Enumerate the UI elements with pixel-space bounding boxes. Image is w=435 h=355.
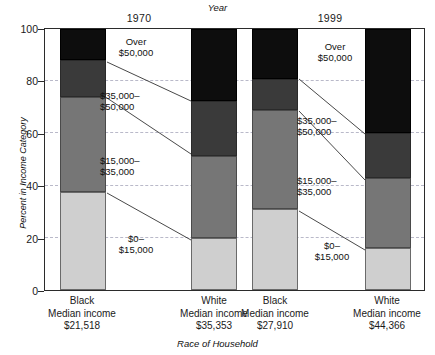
bar-segment-15000-35000[interactable] <box>191 156 237 238</box>
x-axis-title: Race of Household <box>0 338 435 349</box>
callout-line-2: $50,000 <box>297 126 331 137</box>
callout-line-1: $15,000– <box>297 175 337 186</box>
callout-line-1: $35,000– <box>297 115 337 126</box>
callout-15000-35000-1970: $15,000– $35,000 <box>100 155 172 177</box>
y-tick-label-60: 60 <box>8 128 38 140</box>
group-heading-1970: 1970 <box>44 12 234 24</box>
bar-segment-35000-50000[interactable] <box>191 101 237 156</box>
callout-over-50000-1999: Over $50,000 <box>305 41 365 63</box>
callout-line-1: Over <box>325 41 346 52</box>
x-label-1999-black: Black Median income $27,910 <box>221 295 329 333</box>
callout-35000-50000-1999: $35,000– $50,000 <box>297 115 369 137</box>
callout-35000-50000-1970: $35,000– $50,000 <box>100 90 172 112</box>
bar-1999-white[interactable] <box>365 29 411 290</box>
callout-line-1: $0– <box>128 233 144 244</box>
y-tick-label-20: 20 <box>8 233 38 245</box>
bar-1970-white[interactable] <box>191 29 237 290</box>
x-label-median: Median income <box>333 308 435 321</box>
y-axis-title: Percent in Income Category <box>18 98 28 248</box>
x-label-median: Median income <box>28 308 136 321</box>
bar-segment-0-15000[interactable] <box>365 248 411 290</box>
group-heading-1999: 1999 <box>235 12 425 24</box>
callout-line-2: $35,000 <box>100 166 134 177</box>
callout-15000-35000-1999: $15,000– $35,000 <box>297 175 369 197</box>
x-label-1999-white: White Median income $44,366 <box>333 295 435 333</box>
callout-0-15000-1970: $0– $15,000 <box>104 233 168 255</box>
x-label-race: Black <box>221 295 329 308</box>
callout-line-2: $50,000 <box>318 52 352 63</box>
bar-segment-0-15000[interactable] <box>252 209 298 290</box>
y-tick-label-40: 40 <box>8 180 38 192</box>
callout-line-1: $15,000– <box>100 155 140 166</box>
y-tick-label-80: 80 <box>8 75 38 87</box>
bar-segment-over-50000[interactable] <box>252 29 298 79</box>
bar-segment-0-15000[interactable] <box>191 238 237 290</box>
x-label-amount: $44,366 <box>333 320 435 333</box>
bar-segment-over-50000[interactable] <box>60 29 106 60</box>
x-label-1970-black: Black Median income $21,518 <box>28 295 136 333</box>
bar-1999-black[interactable] <box>252 29 298 290</box>
callout-line-2: $50,000 <box>100 101 134 112</box>
y-tick-label-100: 100 <box>8 23 38 35</box>
callout-line-2: $50,000 <box>119 47 153 58</box>
callout-line-1: $0– <box>324 240 340 251</box>
callout-line-1: $35,000– <box>100 90 140 101</box>
callout-line-2: $15,000 <box>119 244 153 255</box>
y-tick-mark-0 <box>38 291 44 292</box>
bar-segment-35000-50000[interactable] <box>252 79 298 110</box>
stacked-bar-chart-figure: Year 1970 1999 Percent in Income Categor… <box>0 0 435 355</box>
bar-segment-0-15000[interactable] <box>60 192 106 290</box>
bar-segment-over-50000[interactable] <box>191 29 237 101</box>
x-label-race: White <box>333 295 435 308</box>
bar-segment-35000-50000[interactable] <box>365 133 411 177</box>
x-label-race: Black <box>28 295 136 308</box>
bar-segment-15000-35000[interactable] <box>252 110 298 209</box>
callout-line-2: $35,000 <box>297 186 331 197</box>
callout-line-2: $15,000 <box>315 251 349 262</box>
callout-line-1: Over <box>126 36 147 47</box>
callout-0-15000-1999: $0– $15,000 <box>300 240 364 262</box>
bar-segment-over-50000[interactable] <box>365 29 411 133</box>
x-label-amount: $21,518 <box>28 320 136 333</box>
x-label-median: Median income <box>221 308 329 321</box>
callout-over-50000-1970: Over $50,000 <box>106 36 166 58</box>
x-label-amount: $27,910 <box>221 320 329 333</box>
bar-segment-15000-35000[interactable] <box>365 178 411 248</box>
